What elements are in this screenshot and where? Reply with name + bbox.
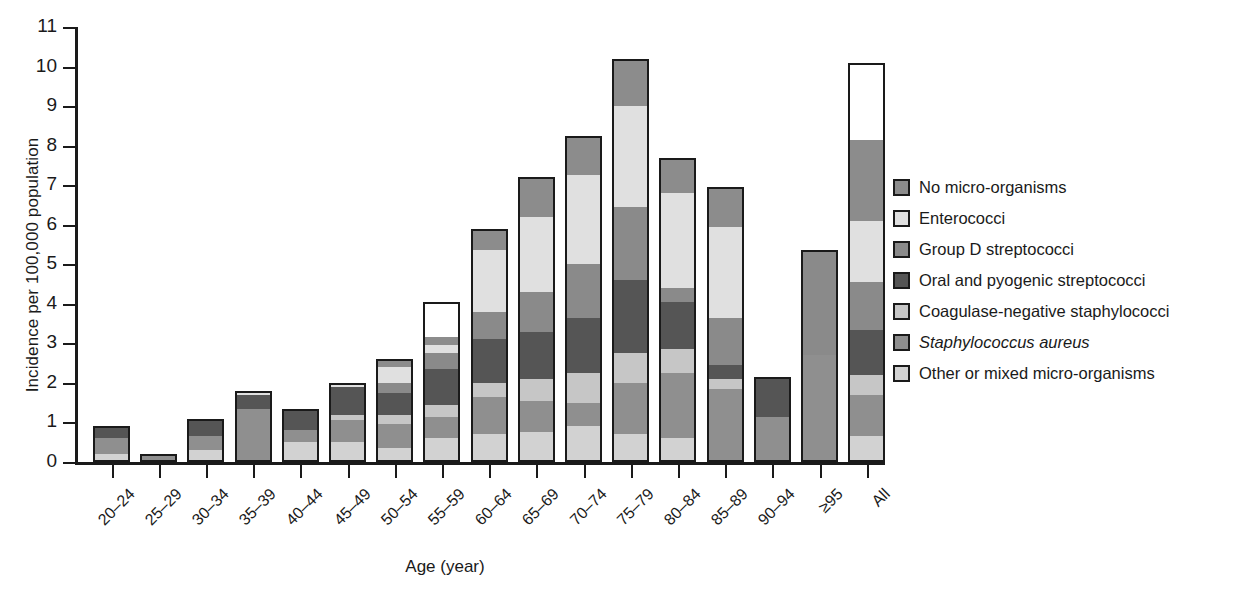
- x-axis-tick: [489, 465, 491, 478]
- legend-item: Oral and pyogenic streptococci: [893, 265, 1228, 296]
- plot-area: 01234567891011 20–2425–2930–3435–3940–44…: [75, 27, 885, 464]
- legend-swatch-icon: [893, 241, 910, 258]
- stacked-bar: [848, 63, 885, 462]
- x-axis-tick: [584, 465, 586, 478]
- bar-segment: [284, 442, 317, 460]
- legend-swatch-icon: [893, 334, 910, 351]
- y-axis-tick-label: 2: [46, 372, 57, 392]
- bar-segment: [850, 375, 883, 395]
- bar-segment: [850, 221, 883, 282]
- x-axis-tick: [395, 465, 397, 478]
- y-axis-tick: 7: [63, 185, 75, 187]
- bar-segment: [567, 136, 600, 176]
- x-axis-tick-label: 45–49: [319, 485, 374, 540]
- bar-segment: [425, 353, 458, 369]
- bar-segment: [850, 282, 883, 329]
- x-axis-tick-label: ≥95: [791, 485, 846, 540]
- stacked-bar: [187, 419, 224, 463]
- x-axis-tick: [112, 465, 114, 478]
- bar-segment: [331, 420, 364, 442]
- x-axis-tick-label: 65–69: [508, 485, 563, 540]
- legend-item: Other or mixed micro-organisms: [893, 358, 1228, 389]
- stacked-bar: [612, 59, 649, 462]
- stacked-bar: [423, 302, 460, 462]
- bar-segment: [614, 59, 647, 106]
- bar-segment: [709, 318, 742, 365]
- bar-segment: [661, 438, 694, 460]
- bar-segment: [189, 450, 222, 460]
- bar-segment: [284, 409, 317, 431]
- legend-label: Staphylococcus aureus: [919, 333, 1090, 352]
- y-axis-tick: 8: [63, 146, 75, 148]
- x-axis-title: Age (year): [0, 557, 890, 577]
- legend-swatch-icon: [893, 303, 910, 320]
- legend-label: Oral and pyogenic streptococci: [919, 271, 1146, 290]
- legend-item: Coagulase-negative staphylococci: [893, 296, 1228, 327]
- bar-segment: [614, 106, 647, 207]
- chart-figure: Incidence per 100,000 population 0123456…: [0, 0, 1234, 607]
- bar-segment: [425, 369, 458, 405]
- stacked-bar: [518, 177, 555, 462]
- bar-segment: [473, 339, 506, 383]
- bar-segment: [284, 430, 317, 442]
- bar-segment: [378, 359, 411, 367]
- y-axis-tick: 10: [63, 67, 75, 69]
- bar-segment: [756, 417, 789, 461]
- x-axis-tick: [206, 465, 208, 478]
- x-axis-tick-label: 80–84: [649, 485, 704, 540]
- x-axis-tick: [725, 465, 727, 478]
- bar-segment: [237, 395, 270, 409]
- bar-segment: [661, 193, 694, 288]
- bar-segment: [520, 217, 553, 292]
- legend-item: Staphylococcus aureus: [893, 327, 1228, 358]
- x-axis-tick: [300, 465, 302, 478]
- x-axis-tick: [348, 465, 350, 478]
- legend-item: No micro-organisms: [893, 172, 1228, 203]
- stacked-bar: [659, 158, 696, 463]
- y-axis-tick-label: 8: [46, 135, 57, 155]
- y-axis-tick-label: 10: [36, 56, 57, 76]
- bar-segment: [378, 448, 411, 460]
- x-axis-tick: [536, 465, 538, 478]
- bar-segment: [95, 438, 128, 454]
- bar-segment: [661, 302, 694, 349]
- bar-segment: [95, 426, 128, 438]
- y-axis-tick: 5: [63, 264, 75, 266]
- x-axis-tick-label: 35–39: [225, 485, 280, 540]
- bar-segment: [850, 140, 883, 221]
- x-axis-tick: [253, 465, 255, 478]
- bar-segment: [473, 434, 506, 460]
- y-axis-tick-label: 4: [46, 293, 57, 313]
- bar-segment: [520, 379, 553, 401]
- x-axis-line: [75, 462, 885, 465]
- bar-segment: [850, 330, 883, 375]
- bar-segment: [473, 397, 506, 435]
- bar-segment: [378, 383, 411, 393]
- y-axis-tick-label: 7: [46, 174, 57, 194]
- bar-segment: [425, 345, 458, 353]
- x-axis-tick: [159, 465, 161, 478]
- x-axis-tick: [772, 465, 774, 478]
- stacked-bar: [565, 136, 602, 462]
- stacked-bar: [282, 409, 319, 462]
- y-axis-tick-label: 5: [46, 253, 57, 273]
- legend-label: Coagulase-negative staphylococci: [919, 302, 1169, 321]
- stacked-bar: [471, 229, 508, 462]
- y-axis-tick-label: 1: [46, 411, 57, 431]
- legend-item: Enterococci: [893, 203, 1228, 234]
- bar-segment: [425, 405, 458, 417]
- bar-segment: [614, 383, 647, 434]
- x-axis-tick: [442, 465, 444, 478]
- bar-segment: [425, 337, 458, 345]
- y-axis-line: [75, 27, 78, 464]
- x-axis-tick-label: 70–74: [555, 485, 610, 540]
- bar-segment: [473, 383, 506, 397]
- bar-segment: [661, 158, 694, 194]
- chart-legend: No micro-organismsEnterococciGroup D str…: [893, 172, 1228, 389]
- bar-segment: [237, 409, 270, 460]
- stacked-bar: [754, 377, 791, 462]
- bar-segment: [709, 389, 742, 460]
- bar-segment: [520, 332, 553, 379]
- bar-segment: [331, 442, 364, 460]
- x-axis-tick-label: 90–94: [744, 485, 799, 540]
